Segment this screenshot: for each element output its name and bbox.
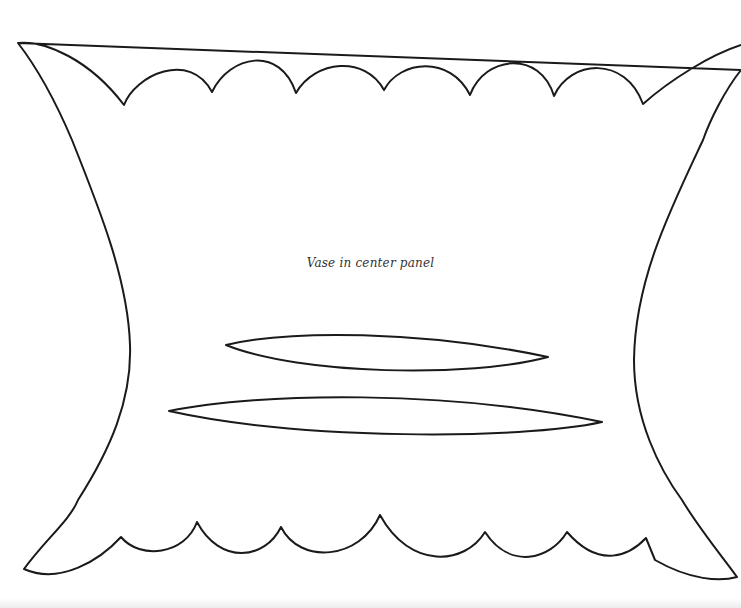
lower-leaf-outline <box>169 397 602 434</box>
figure-caption: Vase in center panel <box>0 256 741 270</box>
pattern-drawing <box>0 0 741 608</box>
outer-panel-outline <box>18 43 741 580</box>
upper-leaf-outline <box>226 335 548 371</box>
pattern-page: Vase in center panel <box>0 0 741 608</box>
page-edge-shadow <box>0 598 741 608</box>
